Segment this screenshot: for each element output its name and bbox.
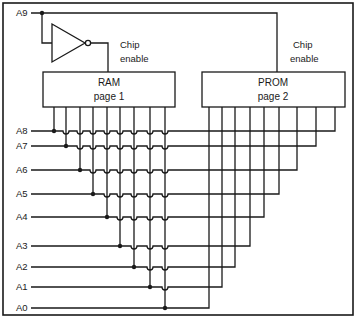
address-wire-a8 — [31, 107, 335, 134]
address-label-a2: A2 — [16, 261, 28, 272]
junction-dot — [148, 285, 152, 289]
junction-dot — [132, 265, 136, 269]
junction-dot — [52, 129, 56, 133]
inverter-to-ram-wire — [91, 43, 108, 72]
address-label-a6: A6 — [16, 164, 28, 175]
junction-dot — [105, 215, 109, 219]
prom-subtitle: page 2 — [258, 91, 289, 102]
ram-chip-enable-label-2: enable — [120, 53, 149, 64]
address-label-a7: A7 — [16, 140, 28, 151]
junction-dot — [64, 144, 68, 148]
junction-dot — [91, 192, 95, 196]
address-wire-a3 — [31, 107, 250, 249]
inverter-gate — [52, 24, 108, 72]
address-label-a5: A5 — [16, 188, 28, 199]
address-labels: A8A7A6A5A4A3A2A1A0 — [16, 125, 28, 313]
circuit-diagram: A9 Chip enable Chip enable RAM page 1 PR… — [0, 0, 356, 321]
address-wire-a6 — [31, 107, 297, 173]
prom-chip-enable-label-1: Chip — [293, 39, 313, 50]
ram-title: RAM — [98, 77, 120, 88]
junction-dot — [78, 168, 82, 172]
junction-dot — [163, 306, 167, 310]
address-wire-a1 — [31, 107, 222, 290]
prom-chip: PROM page 2 — [202, 72, 345, 107]
ram-chip: RAM page 1 — [43, 72, 175, 107]
address-label-a4: A4 — [16, 211, 28, 222]
address-label-a3: A3 — [16, 240, 28, 251]
inverter-triangle-icon — [52, 24, 85, 62]
address-label-a8: A8 — [16, 125, 28, 136]
junction-dot — [118, 244, 122, 248]
ram-subtitle: page 1 — [94, 91, 125, 102]
a9-label: A9 — [16, 7, 28, 18]
address-wires — [31, 107, 335, 310]
address-wire-a7 — [31, 107, 316, 149]
address-wire-a5 — [31, 107, 279, 197]
address-label-a1: A1 — [16, 281, 28, 292]
prom-chip-enable-label-2: enable — [290, 53, 319, 64]
diagram-canvas: A9 Chip enable Chip enable RAM page 1 PR… — [0, 0, 356, 321]
address-label-a0: A0 — [16, 302, 28, 313]
prom-title: PROM — [258, 77, 288, 88]
a9-to-prom-wire — [31, 13, 277, 72]
ram-chip-enable-label-1: Chip — [120, 39, 140, 50]
a9-to-inverter-wire — [42, 13, 52, 43]
